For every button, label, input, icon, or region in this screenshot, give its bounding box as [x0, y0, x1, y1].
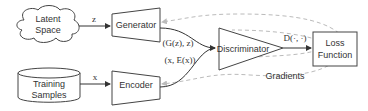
encoder-output-arrow: [160, 48, 215, 87]
encoder-node: Encoder: [112, 71, 160, 105]
encoder-label: Encoder: [119, 80, 153, 90]
x-label: x: [93, 72, 98, 82]
loss-function-label-line2: Function: [318, 50, 353, 60]
training-samples-node: Training Samples: [18, 68, 80, 102]
z-label: z: [92, 14, 96, 24]
encoder-output-label: (x, E(x)): [165, 55, 196, 65]
discriminator-output-label: D(·, ·): [284, 33, 307, 43]
latent-space-node: Latent Space: [17, 6, 79, 43]
generator-output-label: (G(z), z): [163, 38, 194, 48]
discriminator-label: Discriminator: [217, 44, 270, 54]
discriminator-node: Discriminator: [217, 28, 283, 70]
cylinder-top: [18, 68, 80, 78]
generator-label: Generator: [116, 20, 157, 30]
cloud-shape: [17, 6, 79, 43]
bigan-architecture-diagram: Latent Space Training Samples z x Genera…: [0, 0, 368, 111]
training-samples-label-line1: Training: [33, 79, 65, 89]
loss-function-label-line1: Loss: [325, 38, 345, 48]
latent-space-label-line1: Latent: [35, 14, 61, 24]
training-samples-label-line2: Samples: [31, 90, 67, 100]
generator-node: Generator: [112, 8, 160, 42]
latent-space-label-line2: Space: [35, 25, 61, 35]
gradients-label: Gradients: [265, 71, 305, 81]
loss-function-node: Loss Function: [313, 32, 357, 66]
